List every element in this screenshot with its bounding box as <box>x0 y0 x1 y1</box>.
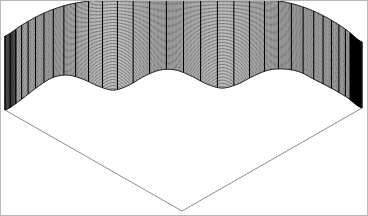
mesh-surface-plot[interactable] <box>0 0 368 216</box>
figure-root: Radially undulating wireframe mesh surfa… <box>0 0 368 216</box>
